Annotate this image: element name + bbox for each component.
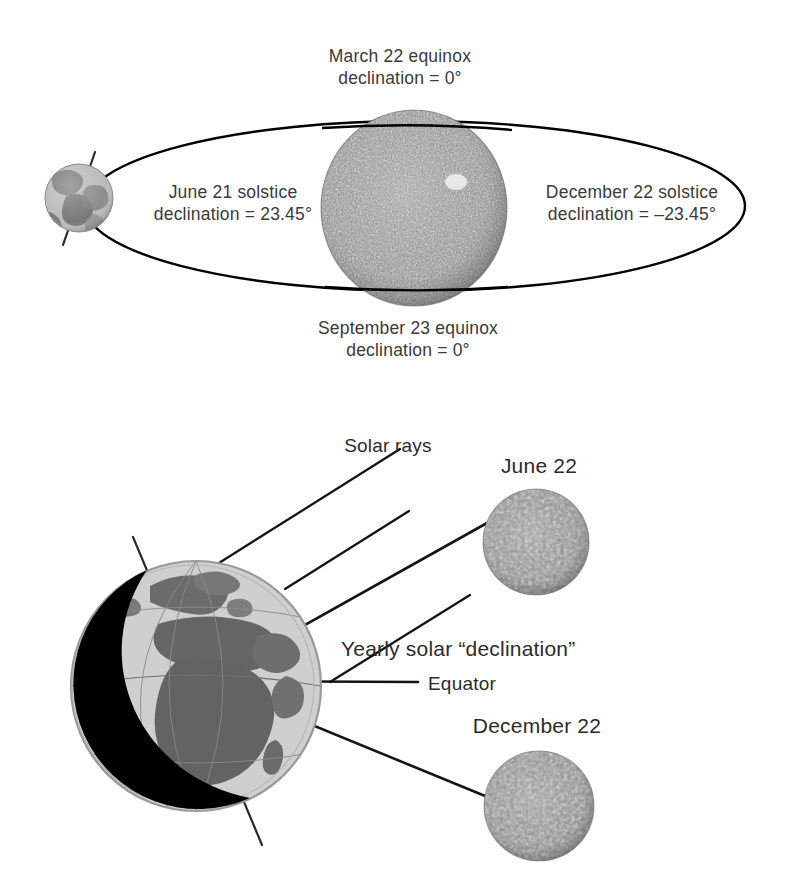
label-june-solstice-line2: declination = 23.45° bbox=[154, 204, 312, 224]
earth-orbit-position bbox=[42, 152, 113, 245]
label-june-solstice-line1: June 21 solstice bbox=[169, 182, 298, 202]
label-yearly-solar-declination: Yearly solar “declination” bbox=[341, 637, 575, 660]
label-equator: Equator bbox=[428, 673, 496, 694]
label-september-equinox-line1: September 23 equinox bbox=[318, 318, 498, 338]
diagram-page: March 22 equinox declination = 0° June 2… bbox=[0, 0, 793, 874]
sun-bright-spot bbox=[445, 174, 467, 190]
solar-ray-line-1 bbox=[219, 449, 400, 563]
sun-december bbox=[484, 751, 594, 861]
label-september-equinox-line2: declination = 0° bbox=[346, 340, 470, 360]
label-june-22: June 22 bbox=[501, 454, 577, 477]
solar-declination-figure: March 22 equinox declination = 0° June 2… bbox=[0, 0, 793, 874]
label-december-solstice-line2: declination = –23.45° bbox=[548, 204, 716, 224]
label-march-equinox-line2: declination = 0° bbox=[338, 68, 462, 88]
sun-center bbox=[321, 110, 507, 306]
label-solar-rays: Solar rays bbox=[344, 435, 432, 456]
label-december-solstice-line1: December 22 solstice bbox=[546, 182, 718, 202]
label-december-22: December 22 bbox=[473, 714, 601, 737]
top-orbit-diagram: March 22 equinox declination = 0° June 2… bbox=[42, 46, 745, 360]
label-march-equinox-line1: March 22 equinox bbox=[329, 46, 471, 66]
earth-day-night bbox=[71, 561, 321, 811]
sun-june bbox=[483, 489, 589, 595]
bottom-declination-diagram: Solar rays June 22 December 22 Yearly so… bbox=[71, 435, 601, 861]
